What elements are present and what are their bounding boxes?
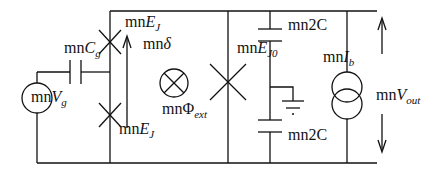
label-cap-top: mn2C [288, 17, 327, 33]
label-ej0: mnEJ0 [237, 40, 278, 56]
label-main: Φ [182, 100, 194, 117]
label-sub: g [95, 47, 101, 59]
label-phi-ext: mnΦext [162, 101, 207, 117]
label-prefix: mn [237, 39, 257, 56]
label-prefix: mn [162, 100, 182, 117]
label-prefix: mn [323, 48, 343, 65]
label-ej-top: mnEJ [125, 14, 160, 30]
label-sub: J0 [267, 47, 277, 59]
label-sub: ext [194, 108, 207, 120]
flux-cross-icon [160, 69, 188, 97]
label-sub: out [406, 94, 420, 106]
label-main: I [343, 48, 348, 65]
current-source-icon [332, 72, 362, 119]
label-vout: mnVout [376, 87, 420, 103]
label-cg: mnCg [64, 40, 101, 56]
label-main: δ [163, 35, 170, 52]
label-cap-bottom: mn2C [288, 127, 327, 143]
label-main: V [396, 86, 406, 103]
label-ej-bottom: mnEJ [119, 121, 154, 137]
label-sub: J [149, 128, 154, 140]
label-main: C [84, 39, 95, 56]
label-sub: b [349, 56, 355, 68]
label-vg: mnVg [31, 89, 67, 105]
label-main: V [51, 88, 61, 105]
label-main: E [257, 39, 267, 56]
label-sub: J [155, 21, 160, 33]
circuit-diagram [0, 0, 441, 172]
ground-icon [270, 87, 304, 114]
label-delta: mnδ [143, 36, 171, 52]
label-sub: g [61, 96, 67, 108]
label-prefix: mn [376, 86, 396, 103]
label-prefix: mn [125, 13, 145, 30]
label-prefix: mn [119, 120, 139, 137]
label-ib: mnIb [323, 49, 354, 65]
label-prefix: mn [143, 35, 163, 52]
label-main: E [139, 120, 149, 137]
label-main: E [145, 13, 155, 30]
label-prefix: mn [31, 88, 51, 105]
label-prefix: mn [64, 39, 84, 56]
